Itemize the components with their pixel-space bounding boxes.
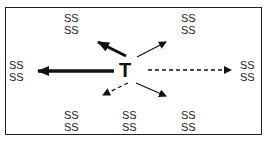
node-top-left: SSSS [64,12,79,36]
center-node-label: T [119,59,131,82]
node-left: SSSS [9,59,24,83]
arrow-down-left [103,83,128,95]
arrow-up-right [137,42,166,57]
node-top-right: SSSS [181,12,196,36]
node-bottom-left: SSSS [64,109,79,133]
node-bottom-center: SSSS [122,109,137,133]
arrow-down-right [136,83,166,96]
arrow-up-left [98,42,126,56]
node-bottom-right: SSSS [181,109,196,133]
node-right: SSSS [240,59,255,83]
